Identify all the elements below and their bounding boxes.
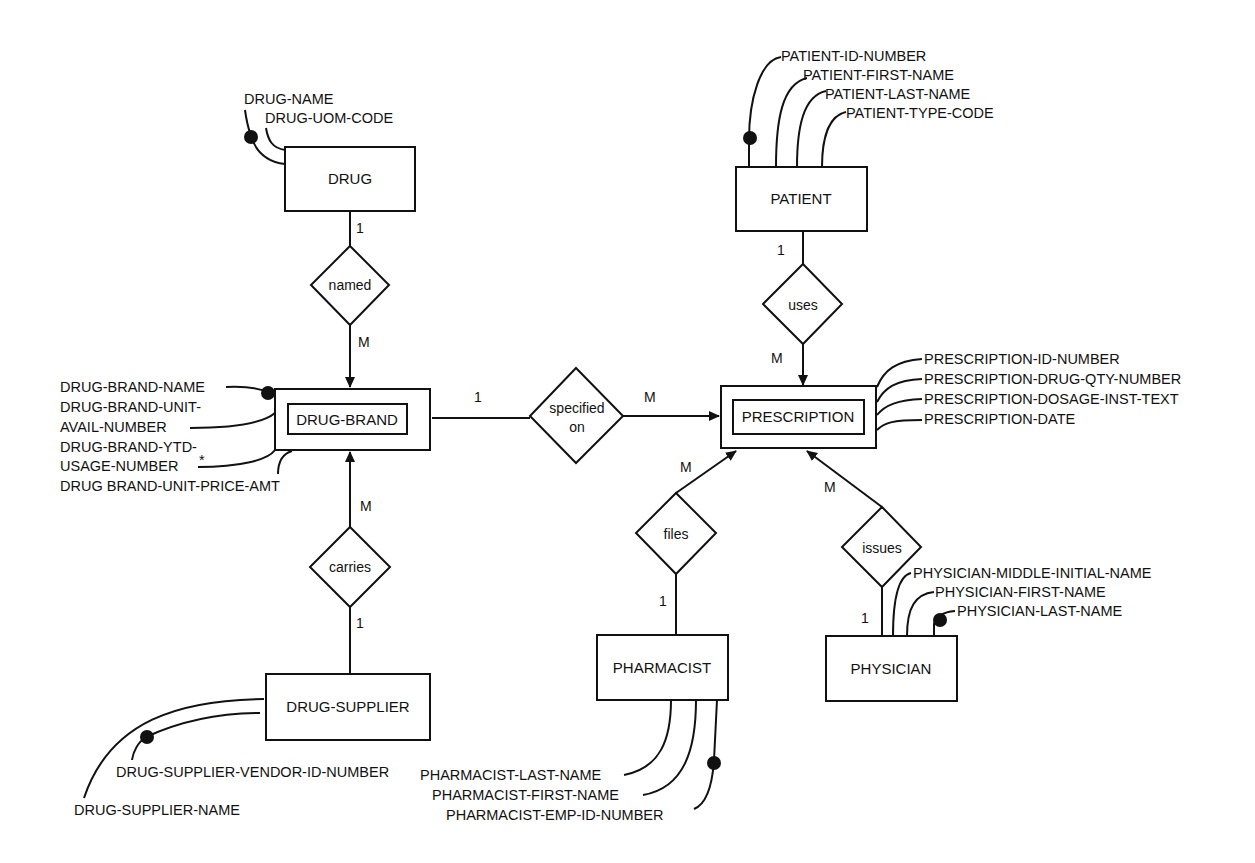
- relationship-label-line1: specified: [549, 400, 604, 416]
- relationship-uses[interactable]: uses: [763, 264, 842, 344]
- attr-physician-middle-initial-name: PHYSICIAN-MIDDLE-INITIAL-NAME: [913, 565, 1152, 581]
- attr-prescription-id-number: PRESCRIPTION-ID-NUMBER: [924, 351, 1120, 367]
- relationship-label: named: [329, 277, 372, 293]
- entity-label: PHYSICIAN: [851, 660, 932, 677]
- entity-physician[interactable]: PHYSICIAN: [826, 636, 957, 701]
- entity-drug[interactable]: DRUG: [285, 147, 415, 211]
- attr-pharmacist-emp-id-number: PHARMACIST-EMP-ID-NUMBER: [446, 807, 664, 823]
- relationship-files[interactable]: files: [636, 493, 716, 574]
- entity-drug-brand[interactable]: DRUG-BRAND: [275, 389, 430, 450]
- entity-prescription[interactable]: PRESCRIPTION: [721, 386, 876, 448]
- attr-physician-last-name: PHYSICIAN-LAST-NAME: [957, 603, 1122, 619]
- entity-drug-supplier[interactable]: DRUG-SUPPLIER: [266, 674, 430, 740]
- attr-connector: [907, 592, 934, 636]
- attr-patient-last-name: PATIENT-LAST-NAME: [825, 86, 971, 102]
- attr-drug-supplier-name: DRUG-SUPPLIER-NAME: [74, 802, 240, 818]
- entity-pharmacist[interactable]: PHARMACIST: [597, 635, 728, 700]
- attr-connector: [198, 450, 275, 467]
- attr-drug-brand-unit: DRUG-BRAND-UNIT-: [60, 399, 201, 415]
- attr-prescription-drug-qty-number: PRESCRIPTION-DRUG-QTY-NUMBER: [924, 371, 1181, 387]
- cardinality-label: M: [771, 350, 783, 366]
- physician-attributes: PHYSICIAN-MIDDLE-INITIAL-NAME PHYSICIAN-…: [893, 565, 1152, 636]
- entity-label: PHARMACIST: [613, 659, 711, 676]
- attr-connector: [694, 700, 717, 809]
- attr-connector: [776, 78, 807, 167]
- attr-pharmacist-first-name: PHARMACIST-FIRST-NAME: [432, 787, 619, 803]
- attr-prescription-date: PRESCRIPTION-DATE: [924, 411, 1076, 427]
- patient-attributes: PATIENT-ID-NUMBER PATIENT-FIRST-NAME PAT…: [743, 48, 994, 167]
- key-attribute-dot-icon: [244, 130, 258, 144]
- attr-patient-type-code: PATIENT-TYPE-CODE: [846, 105, 994, 121]
- attr-connector: [877, 420, 922, 430]
- entity-label: DRUG-BRAND: [296, 411, 398, 428]
- attr-connector: [877, 399, 922, 415]
- attr-drug-brand-unit-price-amt: DRUG BRAND-UNIT-PRICE-AMT: [60, 478, 280, 494]
- attr-avail-number: AVAIL-NUMBER: [60, 419, 167, 435]
- key-attribute-dot-icon: [140, 730, 154, 744]
- attr-connector: [278, 451, 292, 474]
- cardinality-label: M: [358, 334, 370, 350]
- attr-connector: [624, 700, 671, 775]
- attr-drug-name: DRUG-NAME: [244, 91, 334, 107]
- attr-patient-id-number: PATIENT-ID-NUMBER: [781, 48, 926, 64]
- attr-pharmacist-last-name: PHARMACIST-LAST-NAME: [420, 767, 602, 783]
- key-attribute-dot-icon: [707, 756, 721, 770]
- attr-connector: [190, 413, 275, 428]
- entity-label: PRESCRIPTION: [742, 408, 855, 425]
- cardinality-label: M: [644, 389, 656, 405]
- derived-marker: *: [199, 452, 205, 468]
- entity-label: DRUG: [328, 170, 372, 187]
- pharmacist-attributes: PHARMACIST-LAST-NAME PHARMACIST-FIRST-NA…: [420, 700, 721, 823]
- cardinality-label: M: [824, 479, 836, 495]
- relationship-label: uses: [788, 297, 818, 313]
- attr-patient-first-name: PATIENT-FIRST-NAME: [803, 67, 954, 83]
- er-diagram: DRUG DRUG-NAME DRUG-UOM-CODE 1 named M D…: [0, 0, 1255, 863]
- cardinality-label: M: [680, 459, 692, 475]
- prescription-attributes: PRESCRIPTION-ID-NUMBER PRESCRIPTION-DRUG…: [877, 351, 1181, 430]
- drug-brand-attributes: DRUG-BRAND-NAME DRUG-BRAND-UNIT- AVAIL-N…: [60, 379, 292, 494]
- key-attribute-dot-icon: [743, 131, 757, 145]
- attr-physician-first-name: PHYSICIAN-FIRST-NAME: [935, 584, 1106, 600]
- attr-connector: [822, 112, 846, 167]
- relationship-issues[interactable]: issues: [842, 507, 921, 587]
- attr-drug-brand-ytd: DRUG-BRAND-YTD-: [60, 439, 197, 455]
- relationship-label: issues: [862, 540, 902, 556]
- key-attribute-dot-icon: [261, 386, 275, 400]
- entity-label: PATIENT: [770, 190, 831, 207]
- attr-drug-brand-name: DRUG-BRAND-NAME: [60, 379, 205, 395]
- cardinality-label: 1: [356, 615, 364, 631]
- cardinality-label: 1: [356, 220, 364, 236]
- relationship-specified-on[interactable]: specified on: [530, 368, 623, 463]
- relationship-carries[interactable]: carries: [310, 527, 390, 607]
- attr-usage-number: USAGE-NUMBER: [60, 458, 178, 474]
- connector-arrow: [807, 451, 882, 507]
- relationship-label-line2: on: [569, 419, 585, 435]
- relationship-label: files: [664, 526, 689, 542]
- relationship-named[interactable]: named: [311, 246, 389, 325]
- key-attribute-dot-icon: [933, 613, 947, 627]
- cardinality-label: M: [360, 498, 372, 514]
- attr-drug-uom-code: DRUG-UOM-CODE: [265, 110, 393, 126]
- attr-drug-supplier-vendor-id-number: DRUG-SUPPLIER-VENDOR-ID-NUMBER: [116, 764, 389, 780]
- cardinality-label: 1: [777, 242, 785, 258]
- cardinality-label: 1: [474, 389, 482, 405]
- entity-label: DRUG-SUPPLIER: [286, 698, 410, 715]
- relationship-label: carries: [329, 559, 371, 575]
- entity-patient[interactable]: PATIENT: [736, 167, 867, 231]
- cardinality-label: 1: [861, 610, 869, 626]
- cardinality-label: 1: [659, 593, 667, 609]
- attr-connector: [266, 128, 285, 150]
- attr-prescription-dosage-inst-text: PRESCRIPTION-DOSAGE-INST-TEXT: [924, 391, 1179, 407]
